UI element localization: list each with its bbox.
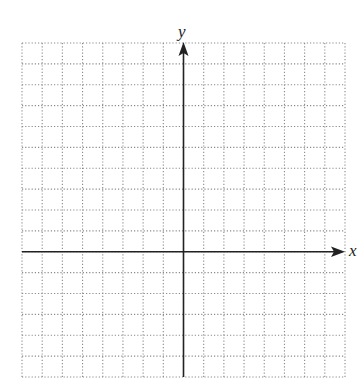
coordinate-plane: x y — [0, 0, 364, 380]
x-axis-label: x — [348, 241, 357, 260]
y-axis-label: y — [176, 22, 186, 41]
